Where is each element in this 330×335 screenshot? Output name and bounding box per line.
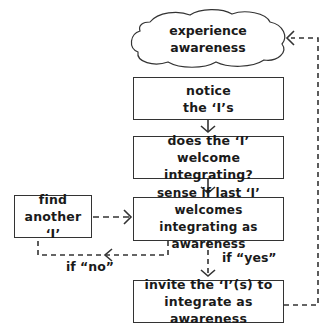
node-text: another ‘I’ <box>15 208 91 242</box>
edge-label-yes: if “yes” <box>222 250 277 265</box>
node-find-another: find another ‘I’ <box>14 195 92 238</box>
node-text: sense if last ‘I’ welcomes <box>134 185 283 219</box>
cloud-line1: experience <box>169 22 247 39</box>
node-text: integrating? <box>164 166 253 183</box>
node-text: the ‘I’s <box>183 99 234 116</box>
cloud-line2: awareness <box>170 39 245 56</box>
node-text: does the ‘I’ welcome <box>134 132 283 166</box>
node-notice: notice the ‘I’s <box>133 77 284 120</box>
node-text: find <box>39 191 67 208</box>
node-text: integrate as awareness <box>134 293 283 327</box>
node-sense: sense if last ‘I’ welcomes integrating a… <box>133 197 284 241</box>
node-text: invite the ‘I’(s) to <box>144 276 272 293</box>
node-text: integrating as awareness <box>134 219 283 253</box>
cloud-experience-awareness: experience awareness <box>133 16 283 62</box>
edge-label-no: if “no” <box>66 259 114 274</box>
node-text: notice <box>186 82 231 99</box>
node-invite: invite the ‘I’(s) to integrate as awaren… <box>133 280 284 323</box>
node-does-welcome: does the ‘I’ welcome integrating? <box>133 136 284 179</box>
